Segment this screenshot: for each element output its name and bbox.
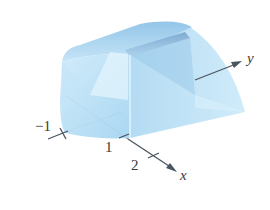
x-axis-arrow-icon: [166, 163, 177, 172]
tick-label-x-1: 1: [105, 139, 113, 155]
y-axis-arrow-icon: [231, 61, 242, 68]
x-axis-label: x: [179, 167, 187, 183]
translucent-solid: [60, 22, 245, 139]
tick-label-y-neg1: −1: [35, 118, 51, 134]
tick-label-x-2: 2: [131, 157, 139, 173]
solid-figure: −1 1 2 x y: [0, 0, 270, 210]
y-axis-label: y: [245, 50, 254, 66]
